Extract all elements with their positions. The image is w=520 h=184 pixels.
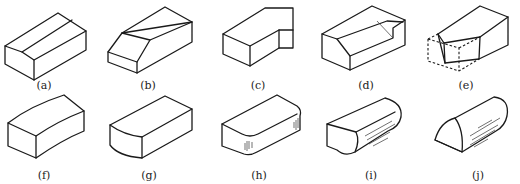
solid-b: [108, 7, 192, 73]
solid-g: [110, 96, 192, 158]
solid-c: [223, 8, 293, 66]
label-i: (i): [365, 169, 377, 182]
solid-f: [8, 95, 84, 158]
label-a: (a): [36, 79, 51, 92]
label-d: (d): [358, 79, 374, 92]
solid-h: [222, 95, 301, 155]
label-c: (c): [251, 79, 266, 92]
label-g: (g): [141, 169, 157, 182]
solid-e: [428, 6, 508, 71]
label-e: (e): [458, 79, 473, 92]
label-h: (h): [251, 169, 267, 182]
label-f: (f): [38, 169, 51, 182]
solid-a: [5, 13, 86, 80]
label-b: (b): [140, 79, 156, 92]
label-j: (j): [472, 169, 484, 182]
solid-j: [435, 97, 507, 152]
solid-i: [327, 98, 401, 154]
solid-d: [322, 6, 405, 70]
figure-canvas: [0, 0, 520, 184]
